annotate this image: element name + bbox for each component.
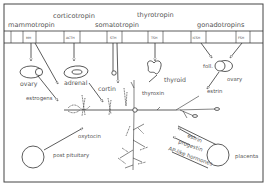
box-acth: ACTH: [66, 36, 75, 40]
label-thyroxin: thyroxin: [142, 90, 164, 97]
label-oxytocin: oxytocin: [78, 133, 101, 140]
ovary-right-icon: [215, 61, 233, 72]
label-thyroid: thyroid: [164, 76, 186, 84]
label-corticotropin: corticotropin: [53, 12, 95, 20]
label-foll: foll.: [203, 63, 213, 69]
label-somatotropin: somatotropin: [95, 21, 139, 29]
label-mammotropin: mammotropin: [8, 21, 55, 29]
label-adrenal: adrenal: [64, 79, 88, 86]
box-sth: STH: [110, 36, 117, 40]
box-icsh: ICSH: [193, 36, 201, 40]
ovary-left-icon: [20, 66, 43, 78]
label-thyrotropin: thyrotropin: [137, 11, 174, 19]
label-post-pituitary: post pituitary: [53, 152, 90, 159]
box-fsh: FSH: [238, 36, 245, 40]
label-gonadotropins: gonadotropins: [197, 21, 245, 29]
thyroid-icon: [148, 61, 162, 74]
label-estrin-ovary: estrin: [207, 88, 222, 94]
label-placenta: placenta: [235, 153, 258, 160]
post-pituitary-icon: [22, 146, 44, 168]
pituitary-hormone-diagram: mammotropin corticotropin somatotropin t…: [0, 0, 264, 183]
box-mh: MH: [26, 36, 32, 40]
box-tsh: TSH: [150, 36, 158, 40]
label-cortin: cortin: [98, 85, 116, 92]
label-ovary-right: ovary: [227, 76, 243, 83]
label-estrogens: estrogens: [26, 95, 53, 102]
label-ovary-left: ovary: [20, 80, 38, 88]
